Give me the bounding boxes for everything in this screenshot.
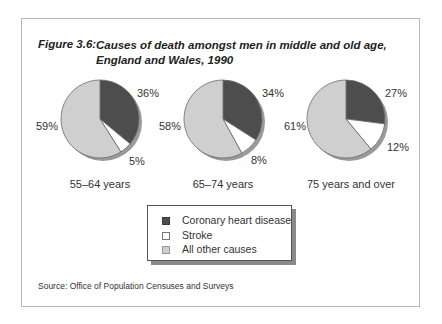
- legend-label-coronary: Coronary heart disease: [182, 214, 291, 226]
- source-note: Source: Office of Population Censuses an…: [38, 281, 233, 291]
- pie-charts: [0, 0, 442, 324]
- legend: Coronary heart disease Stroke All other …: [147, 205, 292, 261]
- pie-slice-coronary: [346, 80, 385, 124]
- legend-label-stroke: Stroke: [182, 229, 212, 241]
- legend-item-other: All other causes: [162, 243, 257, 255]
- pie3-other-label: 61%: [284, 120, 306, 132]
- pie2-other-label: 58%: [159, 120, 181, 132]
- pie1-age-label: 55–64 years: [40, 178, 160, 190]
- stroke-swatch-icon: [162, 232, 170, 240]
- pie3-age-label: 75 years and over: [291, 178, 411, 190]
- legend-item-stroke: Stroke: [162, 229, 212, 241]
- other-swatch-icon: [162, 246, 170, 254]
- pie1-coronary-label: 36%: [137, 87, 159, 99]
- pie3-coronary-label: 27%: [385, 87, 407, 99]
- pie1-other-label: 59%: [36, 120, 58, 132]
- pie2-age-label: 65–74 years: [163, 178, 283, 190]
- coronary-swatch-icon: [162, 217, 170, 225]
- legend-item-coronary: Coronary heart disease: [162, 214, 291, 226]
- pie3-stroke-label: 12%: [387, 141, 409, 153]
- legend-label-other: All other causes: [182, 243, 257, 255]
- pie2-stroke-label: 8%: [251, 154, 267, 166]
- pie1-stroke-label: 5%: [129, 155, 145, 167]
- pie2-coronary-label: 34%: [262, 87, 284, 99]
